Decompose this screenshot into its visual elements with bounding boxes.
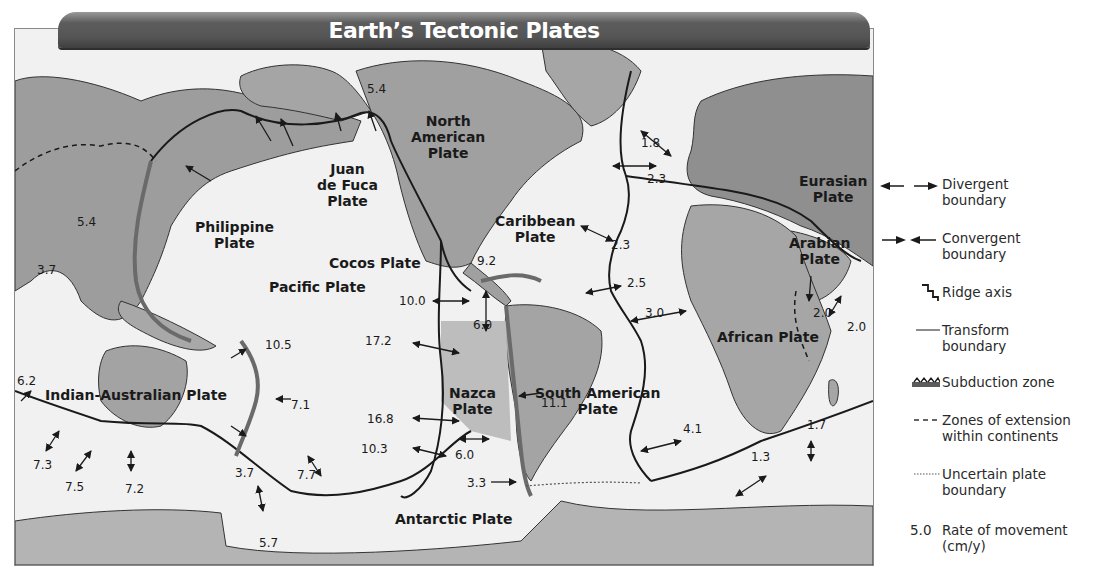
legend-label: Transform boundary <box>942 322 1009 354</box>
rate-label: 4.1 <box>683 423 702 436</box>
rate-label: 17.2 <box>365 335 392 348</box>
legend-item-subduction: Subduction zone <box>878 374 1093 414</box>
label-caribbean-plate: Caribbean Plate <box>495 213 575 245</box>
rate-label: 2.0 <box>847 321 866 334</box>
ridge-axis-icon <box>878 282 940 302</box>
legend-item-uncertain: Uncertain plate boundary <box>878 466 1093 506</box>
rate-label: 7.3 <box>33 459 52 472</box>
dashed-line-icon <box>878 412 940 432</box>
rate-label: 7.2 <box>125 483 144 496</box>
label-cocos-plate: Cocos Plate <box>329 255 421 271</box>
legend-label: Zones of extension within continents <box>942 412 1071 444</box>
rate-label: 7.7 <box>297 469 316 482</box>
rate-number-sample: 5.0 <box>910 522 940 542</box>
madagascar-landmass <box>829 380 839 406</box>
title-banner: Earth’s Tectonic Plates <box>58 12 870 48</box>
label-african-plate: African Plate <box>717 329 819 345</box>
rate-label: 3.7 <box>37 264 56 277</box>
label-philippine-plate: Philippine Plate <box>195 219 274 251</box>
rate-label: 3.7 <box>235 467 254 480</box>
map-title: Earth’s Tectonic Plates <box>328 18 599 43</box>
dotted-line-icon <box>878 466 940 486</box>
legend-item-convergent: Convergent boundary <box>878 230 1093 270</box>
rate-label: 7.1 <box>291 399 310 412</box>
label-nazca-plate: Nazca Plate <box>449 385 496 417</box>
label-indian-australian-plate: Indian-Australian Plate <box>45 387 227 403</box>
rate-label: 5.4 <box>77 216 96 229</box>
legend-label: Convergent boundary <box>942 230 1021 262</box>
rate-label: 3.0 <box>645 307 664 320</box>
convergent-arrows-icon <box>878 230 940 250</box>
label-eurasian-plate: Eurasian Plate <box>799 173 867 205</box>
legend-label: Rate of movement (cm/y) <box>942 522 1068 554</box>
rate-label: 10.5 <box>265 339 292 352</box>
legend-label: Ridge axis <box>942 284 1012 300</box>
subduction-teeth-icon <box>878 372 940 392</box>
rate-label: 7.5 <box>65 481 84 494</box>
rate-label: 5.7 <box>259 537 278 550</box>
map-frame: North American Plate Eurasian Plate Juan… <box>14 28 874 566</box>
legend-item-ridge-axis: Ridge axis <box>878 284 1093 324</box>
rate-label: 1.7 <box>807 419 826 432</box>
label-antarctic-plate: Antarctic Plate <box>395 511 513 527</box>
rate-label: 11.1 <box>541 397 568 410</box>
legend-label: Subduction zone <box>942 374 1055 390</box>
rate-label: 10.0 <box>399 295 426 308</box>
legend-item-divergent: Divergent boundary <box>878 176 1093 216</box>
rate-label: 2.3 <box>611 239 630 252</box>
legend-item-transform: Transform boundary <box>878 322 1093 362</box>
rate-label: 6.0 <box>473 319 492 332</box>
label-north-american-plate: North American Plate <box>411 113 485 161</box>
label-juan-de-fuca-plate: Juan de Fuca Plate <box>317 161 378 209</box>
label-pacific-plate: Pacific Plate <box>269 279 366 295</box>
legend-label: Divergent boundary <box>942 176 1008 208</box>
rate-label: 1.3 <box>751 451 770 464</box>
rate-label: 5.4 <box>367 83 386 96</box>
legend-label: Uncertain plate boundary <box>942 466 1046 498</box>
rate-label: 2.0 <box>813 307 832 320</box>
legend-item-rate: 5.0 Rate of movement (cm/y) <box>878 522 1093 562</box>
rate-label: 10.3 <box>361 443 388 456</box>
divergent-arrows-icon <box>878 176 940 196</box>
rate-label: 9.2 <box>477 255 496 268</box>
rate-label: 6.0 <box>455 449 474 462</box>
rate-label: 1.8 <box>641 137 660 150</box>
label-arabian-plate: Arabian Plate <box>789 235 850 267</box>
transform-line-icon <box>878 322 940 342</box>
rate-label: 2.5 <box>627 277 646 290</box>
rate-label: 16.8 <box>367 413 394 426</box>
legend-item-extension: Zones of extension within continents <box>878 412 1093 452</box>
rate-label: 2.3 <box>647 173 666 186</box>
rate-label: 3.3 <box>467 477 486 490</box>
rate-label: 6.2 <box>17 375 36 388</box>
